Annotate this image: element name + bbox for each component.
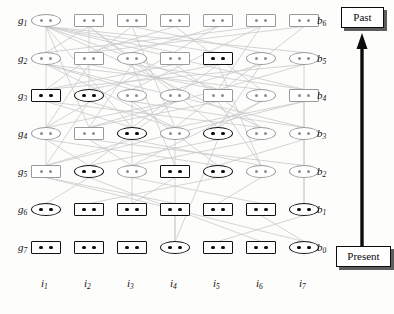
past-label-text: Past: [353, 12, 371, 23]
present-label-text: Present: [347, 251, 379, 262]
figure-canvas: g1g2g3g4g5g6g7 b6b5b4b3b2b1b0 i1i2i3i4i5…: [0, 0, 394, 314]
time-arrow: [0, 0, 394, 314]
present-label-box[interactable]: Present: [336, 246, 391, 267]
past-label-box[interactable]: Past: [341, 7, 384, 28]
